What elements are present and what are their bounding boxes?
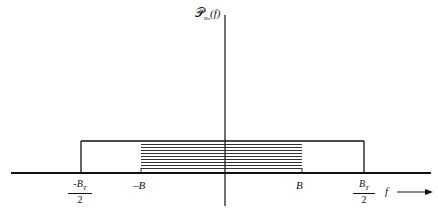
- tick-label-neg-bt-half: -BT 2: [68, 179, 92, 205]
- y-axis-label-arg: (f): [210, 7, 220, 19]
- x-axis-label: f: [385, 186, 388, 197]
- y-axis-label-main: 𝒫: [195, 5, 204, 20]
- arrow-icon: [397, 189, 433, 195]
- y-axis-label: 𝒫no(f): [195, 6, 220, 22]
- hatch-band: [141, 145, 302, 174]
- tick-label-pos-bt-half: BT 2: [353, 179, 375, 205]
- tick-label-neg-b: –B: [133, 180, 145, 191]
- tick-pos-bt-den: 2: [353, 194, 375, 205]
- tick-pos-bt-sub: T: [365, 184, 369, 192]
- tick-neg-bt-num: -B: [73, 178, 82, 189]
- tick-label-b: B: [296, 180, 303, 191]
- tick-neg-bt-sub: T: [83, 184, 87, 192]
- psd-diagram: [0, 0, 438, 208]
- tick-neg-bt-den: 2: [68, 194, 92, 205]
